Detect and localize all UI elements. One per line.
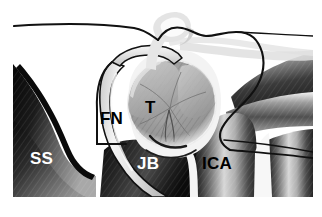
tumor-structure	[125, 49, 221, 158]
sigmoid-sinus-structure	[13, 64, 104, 197]
anatomical-figure: SS FN T JB ICA	[0, 0, 322, 217]
anatomy-illustration	[0, 0, 322, 217]
